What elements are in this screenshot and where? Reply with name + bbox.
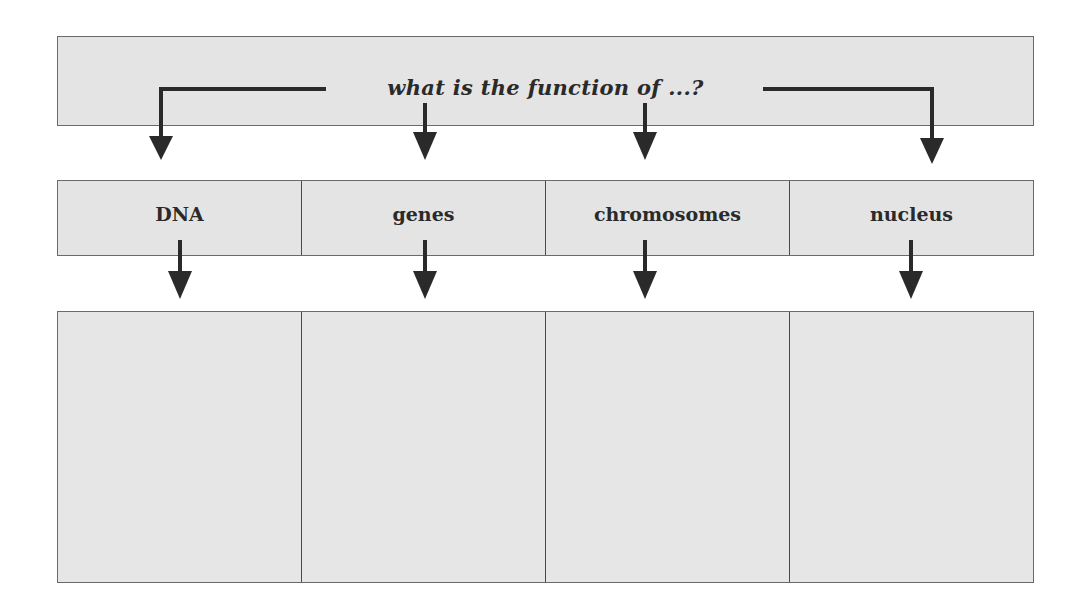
answer-box-chromosomes[interactable] [546,312,790,582]
topic-cell-nucleus: nucleus [790,181,1033,255]
question-label: what is the function of ...? [377,75,713,100]
topic-label: nucleus [870,203,953,225]
question-box: what is the function of ...? [57,36,1034,126]
topic-cell-genes: genes [302,181,546,255]
answer-box-genes[interactable] [302,312,546,582]
answer-box-nucleus[interactable] [790,312,1033,582]
question-text: what is the function of ...? [58,75,1033,100]
topic-label: DNA [155,203,204,225]
topic-cell-chromosomes: chromosomes [546,181,790,255]
topic-label: chromosomes [594,203,741,225]
topic-label-row: DNA genes chromosomes nucleus [57,180,1034,256]
answer-row [57,311,1034,583]
topic-cell-dna: DNA [58,181,302,255]
answer-box-dna[interactable] [58,312,302,582]
topic-label: genes [393,203,455,225]
